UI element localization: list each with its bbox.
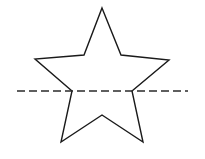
diagram-canvas — [0, 0, 205, 159]
star-outline — [35, 8, 169, 142]
